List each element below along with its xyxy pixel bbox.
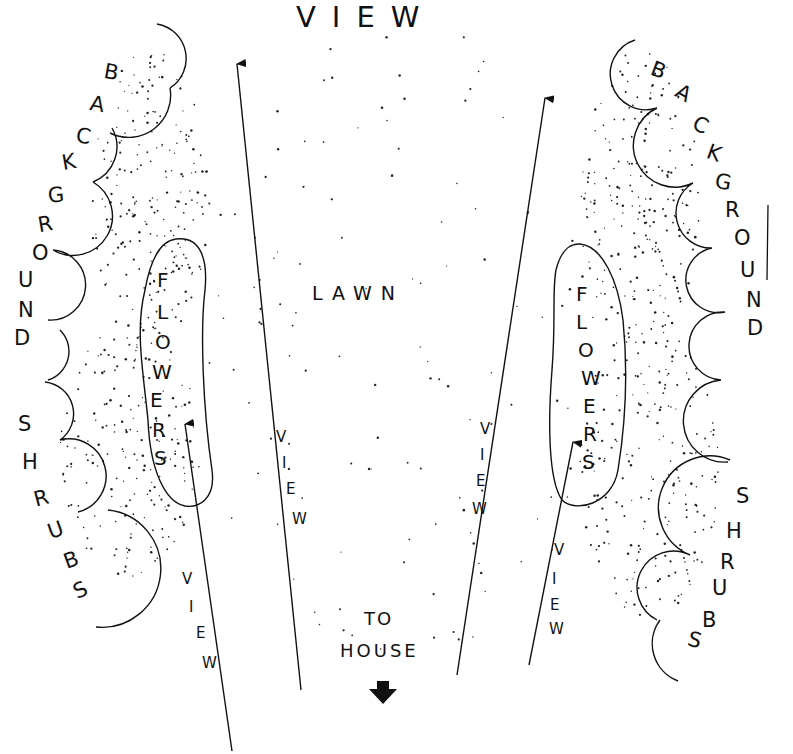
view-label-right-inner-letter: E — [476, 474, 485, 489]
left-shrubs-label-letter: U — [18, 270, 33, 291]
right-shrubs-label-letter: N — [746, 290, 762, 311]
left-flowers-label-letter: S — [154, 448, 167, 468]
left-flowers-label-letter: E — [150, 390, 163, 410]
right-flowers-label-letter: R — [583, 424, 597, 444]
right-flowers-label-letter: E — [583, 396, 596, 416]
right-flowers-label-letter: F — [576, 284, 588, 304]
right-shrubs-label-letter: U — [740, 260, 755, 281]
right-shrubs-label-letter: B — [702, 610, 716, 631]
right-flowers-label-letter: S — [582, 452, 595, 472]
left-shrubs-label-letter: G — [47, 184, 65, 206]
left-shrubs-label-letter: N — [18, 300, 34, 321]
view-label-right-outer-letter: I — [552, 572, 556, 587]
right-shrubs-label-letter: R — [720, 552, 735, 573]
right-flowers-label-letter: L — [576, 312, 587, 332]
view-label-left-outer-letter: E — [286, 482, 295, 497]
view-label-right-inner-letter: W — [472, 502, 487, 517]
view-label-left-outer-letter: W — [292, 512, 307, 527]
left-shrubs-label-letter: H — [22, 452, 38, 473]
down-arrow-icon — [369, 681, 397, 704]
right-shrubs-label-letter: R — [725, 200, 740, 221]
right-shrubs-label-letter: S — [736, 486, 749, 507]
view-label-left-inner-letter: I — [189, 600, 193, 615]
view-arrow-left-outer — [237, 64, 301, 690]
lawn-label: LAWN — [312, 284, 404, 303]
diagram-title: VIEW — [296, 3, 435, 32]
left-flowers-label-letter: L — [157, 302, 168, 322]
right-edge-line — [767, 205, 768, 280]
left-shrubs-label-letter: S — [18, 414, 31, 435]
right-shrubs-label-letter: U — [712, 578, 727, 599]
view-label-right-outer-letter: W — [549, 622, 564, 637]
view-label-left-outer-letter: I — [282, 456, 286, 471]
left-flowers-label-letter: F — [157, 270, 169, 290]
left-flowers-label-letter: R — [152, 420, 166, 440]
right-flowers-label-letter: O — [578, 340, 594, 360]
left-flowers-label-letter: O — [155, 332, 171, 352]
view-label-right-inner-letter: V — [480, 422, 490, 437]
view-label-right-inner-letter: I — [480, 448, 484, 463]
view-arrow-left-inner — [185, 424, 232, 751]
left-flowers-label-letter: W — [152, 362, 172, 382]
right-shrubs-label-letter: H — [726, 521, 742, 542]
view-label-right-outer-letter: E — [550, 598, 559, 613]
view-label-left-inner-letter: W — [202, 656, 217, 671]
right-shrubs-label-letter: O — [734, 228, 751, 249]
to-house-label: TO — [364, 610, 393, 628]
right-flowers-label-letter: W — [581, 368, 601, 388]
view-label-left-inner-letter: V — [182, 572, 192, 587]
view-label-right-outer-letter: V — [554, 543, 564, 558]
right-shrubs-label-letter: D — [747, 318, 763, 339]
view-label-left-outer-letter: V — [276, 430, 286, 445]
left-shrubs-label-letter: O — [32, 243, 49, 264]
view-label-left-inner-letter: E — [196, 626, 205, 641]
house-label: HOUSE — [340, 642, 419, 660]
view-arrow-right-outer — [457, 98, 545, 675]
left-shrubs-label-letter: D — [14, 328, 30, 349]
